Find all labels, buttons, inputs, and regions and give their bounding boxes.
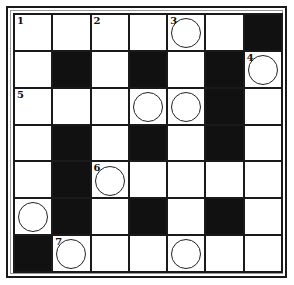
clue-number: 5 bbox=[17, 89, 24, 100]
crossword-cell[interactable] bbox=[168, 126, 204, 161]
black-square bbox=[15, 236, 51, 271]
black-square bbox=[206, 89, 242, 124]
crossword-cell[interactable] bbox=[15, 199, 51, 234]
clue-number: 7 bbox=[55, 236, 62, 247]
black-square bbox=[206, 52, 242, 87]
black-square bbox=[130, 199, 166, 234]
black-square bbox=[53, 52, 89, 87]
crossword-cell[interactable] bbox=[206, 162, 242, 197]
crossword-cell[interactable] bbox=[168, 162, 204, 197]
crossword-cell[interactable]: 5 bbox=[15, 89, 51, 124]
black-square bbox=[130, 126, 166, 161]
black-square bbox=[53, 199, 89, 234]
crossword-cell[interactable]: 3 bbox=[168, 15, 204, 50]
crossword-cell[interactable]: 6 bbox=[92, 162, 128, 197]
clue-number: 2 bbox=[94, 15, 101, 26]
crossword-cell[interactable] bbox=[245, 236, 281, 271]
crossword-cell[interactable] bbox=[53, 15, 89, 50]
crossword-cell[interactable] bbox=[92, 52, 128, 87]
crossword-cell[interactable] bbox=[168, 199, 204, 234]
crossword-cell[interactable] bbox=[245, 89, 281, 124]
clue-number: 1 bbox=[17, 15, 24, 26]
crossword-cell[interactable] bbox=[15, 162, 51, 197]
circle-marker-icon bbox=[171, 239, 201, 269]
crossword-cell[interactable] bbox=[15, 126, 51, 161]
crossword-cell[interactable] bbox=[53, 89, 89, 124]
crossword-cell[interactable]: 4 bbox=[245, 52, 281, 87]
crossword-cell[interactable] bbox=[130, 89, 166, 124]
black-square bbox=[206, 199, 242, 234]
crossword-cell[interactable] bbox=[92, 126, 128, 161]
crossword-cell[interactable] bbox=[168, 52, 204, 87]
clue-number: 6 bbox=[94, 162, 101, 173]
crossword-cell[interactable] bbox=[92, 89, 128, 124]
circle-marker-icon bbox=[171, 92, 201, 122]
circle-marker-icon bbox=[18, 202, 48, 232]
crossword-cell[interactable] bbox=[206, 236, 242, 271]
crossword-grid: 1234567 bbox=[13, 13, 283, 273]
crossword-cell[interactable] bbox=[245, 162, 281, 197]
crossword-cell[interactable] bbox=[168, 236, 204, 271]
crossword-cell[interactable] bbox=[130, 236, 166, 271]
clue-number: 4 bbox=[247, 52, 254, 63]
crossword-cell[interactable] bbox=[245, 126, 281, 161]
black-square bbox=[53, 162, 89, 197]
clue-number: 3 bbox=[170, 15, 177, 26]
crossword-cell[interactable] bbox=[92, 236, 128, 271]
black-square bbox=[206, 126, 242, 161]
black-square bbox=[130, 52, 166, 87]
crossword-cell[interactable] bbox=[130, 15, 166, 50]
circle-marker-icon bbox=[133, 92, 163, 122]
black-square bbox=[245, 15, 281, 50]
crossword-cell[interactable] bbox=[168, 89, 204, 124]
black-square bbox=[53, 126, 89, 161]
crossword-cell[interactable]: 7 bbox=[53, 236, 89, 271]
crossword-cell[interactable] bbox=[130, 162, 166, 197]
crossword-cell[interactable] bbox=[206, 15, 242, 50]
crossword-cell[interactable] bbox=[245, 199, 281, 234]
crossword-cell[interactable] bbox=[15, 52, 51, 87]
crossword-cell[interactable]: 2 bbox=[92, 15, 128, 50]
crossword-cell[interactable]: 1 bbox=[15, 15, 51, 50]
crossword-cell[interactable] bbox=[92, 199, 128, 234]
